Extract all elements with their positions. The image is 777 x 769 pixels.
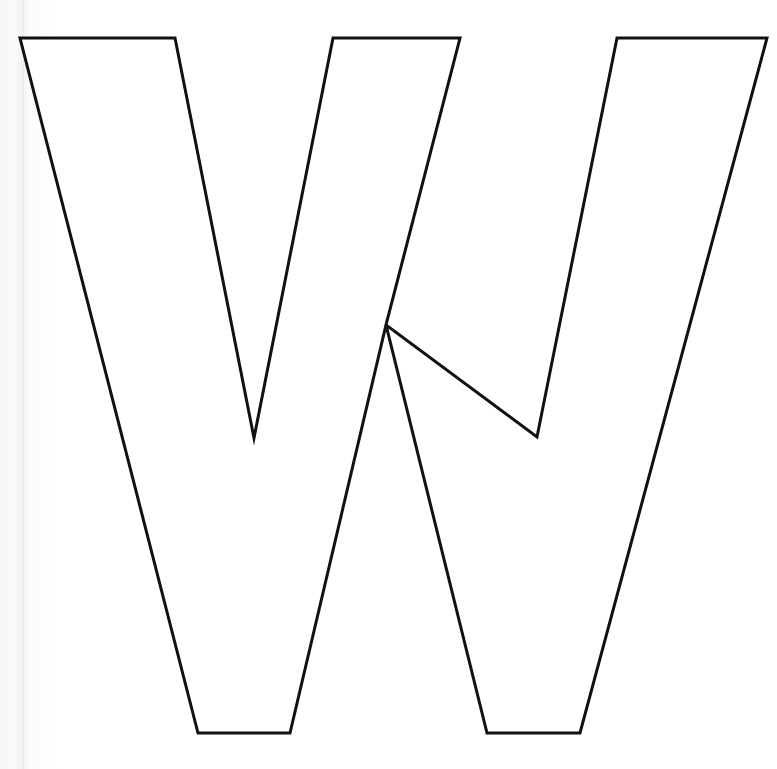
letter-w-outline-graphic [0,0,777,769]
letter-w-path [20,38,767,733]
page-canvas: W [0,0,777,769]
